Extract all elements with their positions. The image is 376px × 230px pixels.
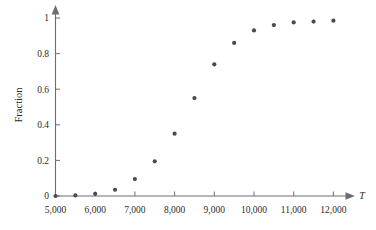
y-axis-tick-labels: 0 0.2 0.4 0.6 0.8 1 [37, 13, 49, 201]
x-axis-title: T [359, 190, 366, 201]
y-tick-label-0.6: 0.6 [37, 85, 49, 95]
y-axis-arrow-icon [52, 5, 60, 15]
x-tick-label-8000: 8,000 [164, 205, 186, 215]
data-point-group [53, 19, 335, 199]
data-point [311, 19, 315, 23]
y-tick-label-0.2: 0.2 [37, 156, 49, 166]
data-point [113, 188, 117, 192]
x-tick-label-5000: 5,000 [45, 205, 67, 215]
data-point [133, 177, 137, 181]
data-point [93, 192, 97, 196]
data-point [252, 28, 256, 32]
data-point [331, 19, 335, 23]
y-tick-label-0: 0 [44, 191, 49, 201]
data-point [73, 193, 77, 197]
x-tick-label-6000: 6,000 [85, 205, 107, 215]
y-axis-title: Fraction [13, 87, 24, 123]
data-point [232, 41, 236, 45]
y-axis-ticks [56, 18, 61, 196]
data-point [212, 62, 216, 66]
x-tick-label-10000: 10,000 [241, 205, 267, 215]
chart-figure: 0 0.2 0.4 0.6 0.8 1 5,000 6,000 7,000 8,… [0, 0, 376, 230]
x-axis-arrow-icon [346, 192, 356, 200]
scatter-plot-canvas: 0 0.2 0.4 0.6 0.8 1 5,000 6,000 7,000 8,… [0, 0, 376, 230]
x-tick-label-9000: 9,000 [204, 205, 226, 215]
data-point [292, 20, 296, 24]
data-point [192, 96, 196, 100]
x-axis-tick-labels: 5,000 6,000 7,000 8,000 9,000 10,000 11,… [45, 205, 347, 215]
data-point [173, 132, 177, 136]
x-tick-label-7000: 7,000 [124, 205, 146, 215]
data-point [153, 159, 157, 163]
data-point [53, 194, 57, 198]
y-tick-label-0.4: 0.4 [37, 120, 49, 130]
y-tick-label-1: 1 [44, 13, 49, 23]
y-tick-label-0.8: 0.8 [37, 49, 49, 59]
x-tick-label-11000: 11,000 [281, 205, 307, 215]
data-point [272, 23, 276, 27]
x-tick-label-12000: 12,000 [320, 205, 346, 215]
